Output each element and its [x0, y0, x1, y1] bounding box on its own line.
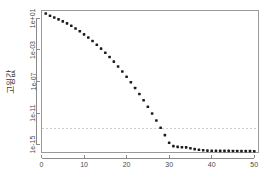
data-point [117, 65, 120, 68]
data-point [210, 149, 213, 152]
x-tick-label: 10 [80, 161, 88, 168]
data-point [142, 99, 145, 102]
data-point [57, 18, 60, 21]
data-point [121, 70, 124, 73]
data-point [53, 16, 56, 19]
data-point [74, 27, 77, 30]
data-point [108, 56, 111, 59]
data-point [244, 150, 247, 153]
data-point [134, 87, 137, 90]
data-point [240, 150, 243, 153]
data-point [206, 149, 209, 152]
y-tick-label: 1e-11 [30, 104, 37, 121]
data-point [172, 145, 175, 148]
data-point [193, 148, 196, 151]
data-point [236, 150, 239, 153]
data-point [83, 33, 86, 36]
data-points [44, 12, 255, 152]
data-point [61, 20, 64, 23]
data-point [215, 149, 218, 152]
data-point [44, 12, 47, 15]
y-tick-label: 1e-07 [30, 72, 37, 90]
data-point [151, 112, 154, 115]
data-point [232, 150, 235, 153]
data-point [189, 147, 192, 150]
data-point [155, 119, 158, 122]
x-axis: 01020304050 [40, 155, 259, 169]
x-tick-label: 40 [208, 161, 216, 168]
data-point [104, 51, 107, 54]
y-axis-label-text: 고윙값 [5, 70, 16, 94]
data-point [185, 146, 188, 149]
data-point [164, 134, 167, 137]
data-point [100, 47, 103, 50]
y-tick-label: 1e-03 [30, 41, 37, 59]
data-point [176, 146, 179, 149]
data-point [113, 60, 116, 63]
y-axis: 1e+011e-031e-071e-111e-15 [30, 8, 40, 153]
y-tick-label: 1e+01 [30, 8, 37, 28]
data-point [49, 14, 52, 17]
data-point [223, 150, 226, 153]
scatter-plot: 01020304050 1e+011e-031e-071e-111e-15 고윙… [0, 0, 267, 184]
data-point [138, 93, 141, 96]
data-point [159, 126, 162, 129]
x-tick-label: 0 [40, 161, 44, 168]
data-point [198, 148, 201, 151]
data-point [227, 150, 230, 153]
chart-container: 01020304050 1e+011e-031e-071e-111e-15 고윙… [0, 0, 267, 184]
y-tick-label: 1e-15 [30, 136, 37, 154]
data-point [181, 146, 184, 149]
plot-border [42, 11, 259, 153]
plot-frame [42, 11, 259, 153]
data-point [130, 81, 133, 84]
data-point [91, 40, 94, 43]
data-point [66, 22, 69, 25]
data-point [202, 149, 205, 152]
data-point [168, 141, 171, 144]
data-point [253, 150, 256, 153]
data-point [96, 43, 99, 46]
data-point [78, 30, 81, 33]
data-point [70, 24, 73, 27]
x-tick-label: 50 [250, 161, 258, 168]
data-point [87, 36, 90, 39]
data-point [125, 75, 128, 78]
x-tick-label: 20 [123, 161, 131, 168]
x-tick-label: 30 [165, 161, 173, 168]
y-axis-title: 고윙값 [5, 70, 16, 94]
data-point [147, 105, 150, 108]
data-point [219, 150, 222, 153]
data-point [249, 150, 252, 153]
